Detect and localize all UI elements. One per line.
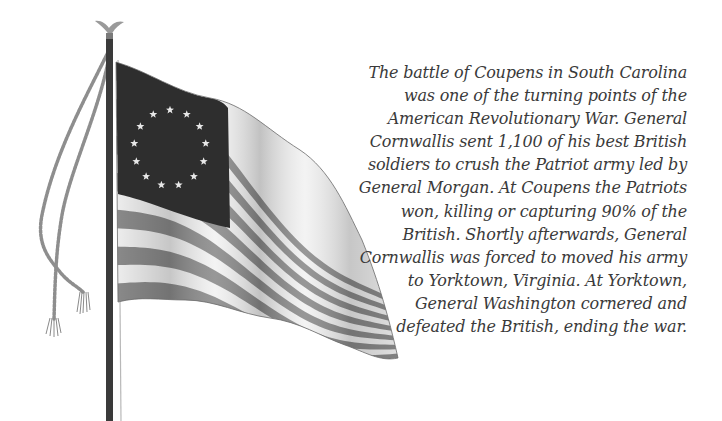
- eagle-finial-icon: [95, 21, 124, 39]
- caption-line: won, killing or capturing 90% of the: [350, 200, 687, 223]
- caption-line: General Washington cornered and: [350, 292, 687, 315]
- caption-line: The battle of Coupens in South Carolina: [350, 61, 687, 84]
- rope-icon: [41, 48, 110, 320]
- caption-line: Cornwallis was forced to moved his army: [350, 246, 687, 269]
- caption-line: American Revolutionary War. General: [350, 107, 687, 130]
- caption-text: The battle of Coupens in South Carolina …: [350, 61, 687, 338]
- caption-line: to Yorktown, Virginia. At Yorktown,: [350, 269, 687, 292]
- caption-line: General Morgan. At Coupens the Patriots: [350, 176, 687, 199]
- caption-line: was one of the turning points of the: [350, 84, 687, 107]
- flagpole: [106, 38, 113, 421]
- caption-line: Cornwallis sent 1,100 of his best Britis…: [350, 130, 687, 153]
- caption-line: British. Shortly afterwards, General: [350, 223, 687, 246]
- caption-line: defeated the British, ending the war.: [350, 315, 687, 338]
- caption-line: soldiers to crush the Patriot army led b…: [350, 153, 687, 176]
